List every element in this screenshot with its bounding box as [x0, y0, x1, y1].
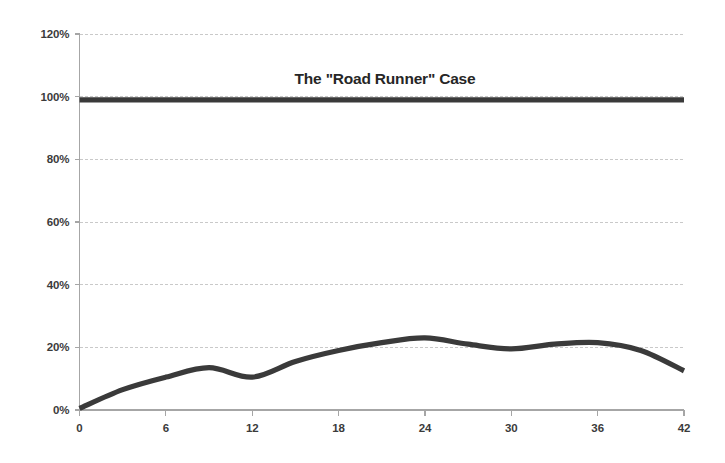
- x-axis-label-36: 36: [591, 422, 604, 434]
- x-axis-label-42: 42: [678, 422, 691, 434]
- series-line-1: [80, 338, 685, 409]
- y-axis-label-0: 0%: [0, 404, 70, 416]
- x-axis-label-12: 12: [246, 422, 259, 434]
- y-axis-label-40: 40%: [0, 279, 70, 291]
- axis-ticks: [75, 34, 685, 416]
- y-axis-label-120: 120%: [0, 28, 70, 40]
- y-axis-label-20: 20%: [0, 341, 70, 353]
- y-axis-label-100: 100%: [0, 91, 70, 103]
- chart-container: The "Road Runner" Case 0%20%40%60%80%100…: [0, 0, 725, 463]
- x-axis-label-18: 18: [332, 422, 345, 434]
- chart-title: The "Road Runner" Case: [295, 70, 476, 88]
- x-axis-label-0: 0: [76, 422, 82, 434]
- x-axis-label-6: 6: [163, 422, 169, 434]
- data-series: [80, 100, 685, 409]
- x-axis-label-24: 24: [419, 422, 432, 434]
- y-axis-label-60: 60%: [0, 216, 70, 228]
- y-axis-label-80: 80%: [0, 153, 70, 165]
- x-axis-label-30: 30: [505, 422, 518, 434]
